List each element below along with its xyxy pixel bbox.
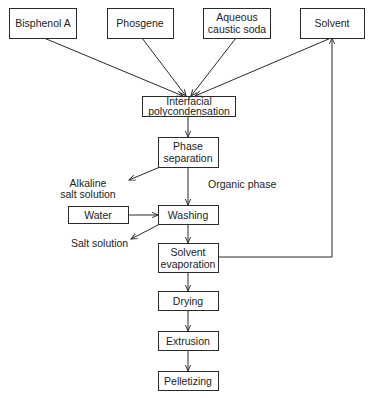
annotation-alkaline-line2: salt solution	[60, 188, 116, 200]
node-label: Pelletizing	[164, 375, 212, 387]
node-phosgene: Phosgene	[108, 9, 174, 39]
node-aqueous-caustic-soda: Aqueous caustic soda	[204, 9, 271, 39]
edge-phase-to-alkaline	[129, 167, 160, 180]
edge-caustic-to-interfacial	[191, 38, 236, 96]
node-extrusion: Extrusion	[159, 332, 219, 351]
node-bisphenol-a: Bisphenol A	[10, 9, 77, 39]
node-label: Water	[84, 209, 112, 221]
process-flow-diagram: Bisphenol A Phosgene Aqueous caustic sod…	[0, 0, 374, 398]
edge-solvent-to-interfacial	[195, 38, 331, 96]
node-label-line2: evaporation	[161, 258, 216, 270]
node-label: Phosgene	[116, 17, 163, 29]
node-water: Water	[69, 207, 129, 224]
node-label-line2: caustic soda	[208, 23, 267, 35]
node-solvent-evaporation: Solvent evaporation	[159, 244, 219, 273]
node-interfacial-polycondensation: Interfacial polycondensation	[143, 95, 236, 117]
node-label-line1: Phase	[173, 140, 203, 152]
node-label: Solvent	[314, 17, 349, 29]
node-solvent: Solvent	[301, 9, 365, 39]
edges	[44, 38, 332, 371]
node-pelletizing: Pelletizing	[159, 372, 219, 391]
node-label-line1: Solvent	[170, 246, 205, 258]
node-washing: Washing	[159, 206, 219, 225]
edge-evaporation-to-solvent	[218, 38, 332, 257]
node-label: Extrusion	[166, 335, 210, 347]
edge-bisphenol-to-interfacial	[44, 38, 183, 96]
node-label-line2: separation	[163, 152, 212, 164]
node-label: Bisphenol A	[15, 17, 70, 29]
node-phase-separation: Phase separation	[159, 138, 219, 168]
annotation-salt-solution: Salt solution	[71, 237, 128, 249]
node-drying: Drying	[159, 292, 219, 311]
node-label: Drying	[173, 295, 204, 307]
edge-phosgene-to-interfacial	[142, 38, 186, 96]
node-label-line2: polycondensation	[148, 105, 230, 117]
node-label-line1: Aqueous	[216, 11, 257, 23]
node-label: Washing	[168, 209, 209, 221]
annotation-organic-phase: Organic phase	[208, 178, 276, 190]
edge-washing-to-salt	[131, 224, 160, 239]
